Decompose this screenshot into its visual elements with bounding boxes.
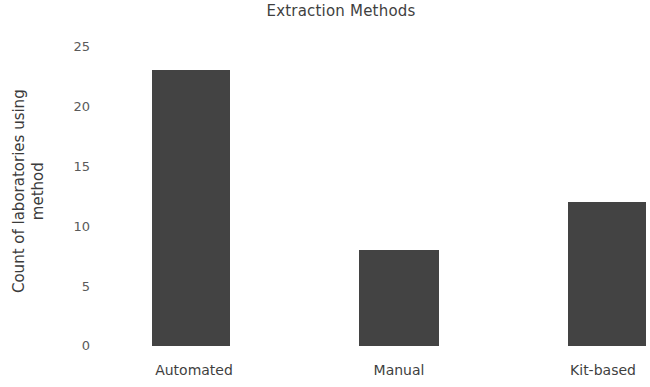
bar-manual [359, 250, 439, 346]
bar-automated [152, 70, 230, 346]
bar-kit-based [568, 202, 646, 346]
x-tick-label-automated: Automated [155, 362, 233, 378]
x-tick-label-manual: Manual [374, 362, 425, 378]
x-tick-label-kit-based: Kit-based [570, 362, 636, 378]
